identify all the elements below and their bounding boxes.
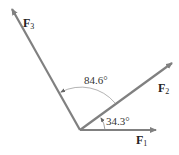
angle-label-84: 84.6° [84, 75, 108, 86]
angle-label-34: 34.3° [106, 116, 130, 127]
label-f1: F1 [136, 134, 147, 148]
label-f2: F2 [158, 82, 169, 96]
label-f3: F3 [23, 17, 34, 31]
angle-arc-84 [61, 87, 115, 103]
angle-arc-34 [101, 118, 105, 130]
